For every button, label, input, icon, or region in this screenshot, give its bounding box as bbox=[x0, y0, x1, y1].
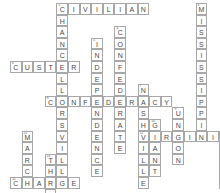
crossword-cell[interactable]: 1C bbox=[56, 3, 68, 15]
crossword-cell[interactable]: I bbox=[149, 131, 161, 143]
crossword-cell[interactable]: R bbox=[219, 154, 220, 166]
crossword-cell[interactable]: P bbox=[196, 96, 208, 108]
crossword-cell[interactable]: N bbox=[91, 142, 103, 154]
crossword-cell[interactable]: C bbox=[22, 165, 34, 177]
crossword-cell[interactable]: F bbox=[80, 96, 92, 108]
crossword-cell[interactable]: D bbox=[91, 61, 103, 73]
crossword-cell[interactable]: 7N bbox=[138, 84, 150, 96]
crossword-cell[interactable]: S bbox=[33, 61, 45, 73]
crossword-cell[interactable]: S bbox=[196, 26, 208, 38]
crossword-cell[interactable]: A bbox=[126, 3, 138, 15]
crossword-cell[interactable]: 15C bbox=[10, 177, 22, 189]
crossword-cell[interactable]: S bbox=[196, 38, 208, 50]
crossword-cell[interactable]: E bbox=[114, 96, 126, 108]
crossword-cell[interactable]: I bbox=[207, 131, 219, 143]
crossword-cell[interactable]: G bbox=[172, 131, 184, 143]
crossword-cell[interactable]: E bbox=[114, 142, 126, 154]
crossword-cell[interactable]: R bbox=[22, 154, 34, 166]
crossword-cell[interactable]: L bbox=[103, 3, 115, 15]
crossword-cell[interactable]: I bbox=[114, 3, 126, 15]
crossword-cell[interactable]: N bbox=[138, 3, 150, 15]
crossword-cell[interactable]: E bbox=[68, 177, 80, 189]
crossword-cell[interactable]: D bbox=[103, 96, 115, 108]
crossword-cell[interactable]: S bbox=[196, 61, 208, 73]
crossword-cell[interactable]: A bbox=[114, 119, 126, 131]
crossword-cell[interactable]: L bbox=[56, 84, 68, 96]
crossword-cell[interactable]: U bbox=[22, 61, 34, 73]
crossword-cell[interactable]: L bbox=[56, 154, 68, 166]
crossword-cell[interactable]: O bbox=[172, 142, 184, 154]
crossword-cell[interactable]: V bbox=[56, 131, 68, 143]
crossword-cell[interactable]: A bbox=[33, 177, 45, 189]
crossword-cell[interactable]: N bbox=[149, 154, 161, 166]
crossword-cell[interactable]: D bbox=[91, 119, 103, 131]
crossword-cell[interactable]: R bbox=[161, 131, 173, 143]
crossword-cell[interactable]: C bbox=[149, 96, 161, 108]
crossword-cell[interactable]: N bbox=[114, 49, 126, 61]
crossword-cell[interactable]: L bbox=[138, 165, 150, 177]
crossword-cell[interactable]: R bbox=[126, 96, 138, 108]
crossword-cell[interactable]: I bbox=[196, 84, 208, 96]
crossword-cell[interactable]: C bbox=[56, 49, 68, 61]
crossword-cell[interactable]: 6C bbox=[10, 61, 22, 73]
crossword-cell[interactable]: I bbox=[56, 142, 68, 154]
crossword-cell[interactable]: L bbox=[138, 154, 150, 166]
crossword-cell[interactable]: F bbox=[114, 61, 126, 73]
crossword-cell[interactable]: N bbox=[172, 154, 184, 166]
crossword-cell[interactable]: 9U bbox=[172, 107, 184, 119]
crossword-cell[interactable]: Y bbox=[161, 96, 173, 108]
crossword-cell[interactable]: I bbox=[219, 165, 220, 177]
crossword-cell[interactable]: O bbox=[56, 96, 68, 108]
crossword-cell[interactable]: P bbox=[219, 142, 220, 154]
crossword-cell[interactable]: E bbox=[91, 96, 103, 108]
crossword-cell[interactable]: R bbox=[45, 177, 57, 189]
crossword-cell[interactable]: 13A bbox=[219, 131, 220, 143]
crossword-cell[interactable]: L bbox=[56, 73, 68, 85]
crossword-cell[interactable]: N bbox=[196, 131, 208, 143]
crossword-cell[interactable]: E bbox=[91, 131, 103, 143]
crossword-cell[interactable]: I bbox=[196, 49, 208, 61]
crossword-cell[interactable]: I bbox=[184, 131, 196, 143]
crossword-cell[interactable]: R bbox=[56, 107, 68, 119]
crossword-cell[interactable]: A bbox=[149, 142, 161, 154]
crossword-cell[interactable]: 8C bbox=[45, 96, 57, 108]
crossword-cell[interactable]: H bbox=[56, 15, 68, 27]
crossword-cell[interactable]: R bbox=[68, 61, 80, 73]
crossword-cell[interactable]: C bbox=[91, 154, 103, 166]
crossword-cell[interactable]: L bbox=[56, 165, 68, 177]
crossword-cell[interactable]: S bbox=[138, 107, 150, 119]
crossword-cell[interactable]: A bbox=[138, 96, 150, 108]
crossword-cell[interactable]: I bbox=[138, 142, 150, 154]
crossword-cell[interactable]: 14T bbox=[45, 154, 57, 166]
crossword-cell[interactable]: E bbox=[56, 61, 68, 73]
crossword-cell[interactable]: H bbox=[45, 165, 57, 177]
crossword-cell[interactable]: L bbox=[219, 177, 220, 189]
crossword-cell[interactable]: S bbox=[196, 73, 208, 85]
crossword-cell[interactable]: 4C bbox=[114, 26, 126, 38]
crossword-cell[interactable]: D bbox=[114, 84, 126, 96]
crossword-cell[interactable]: N bbox=[91, 49, 103, 61]
crossword-cell[interactable]: E bbox=[91, 165, 103, 177]
crossword-cell[interactable]: T bbox=[149, 165, 161, 177]
crossword-cell[interactable]: N bbox=[56, 38, 68, 50]
crossword-cell[interactable]: N bbox=[172, 119, 184, 131]
crossword-cell[interactable]: N bbox=[91, 107, 103, 119]
crossword-cell[interactable]: S bbox=[56, 119, 68, 131]
crossword-cell[interactable]: I bbox=[196, 119, 208, 131]
crossword-cell[interactable]: E bbox=[138, 177, 150, 189]
crossword-cell[interactable]: I bbox=[68, 3, 80, 15]
crossword-cell[interactable]: N bbox=[68, 96, 80, 108]
crossword-cell[interactable]: I bbox=[91, 3, 103, 15]
crossword-cell[interactable]: P bbox=[91, 84, 103, 96]
crossword-cell[interactable]: 12V bbox=[138, 131, 150, 143]
crossword-cell[interactable]: H bbox=[138, 119, 150, 131]
crossword-cell[interactable]: O bbox=[114, 38, 126, 50]
crossword-cell[interactable]: V bbox=[80, 3, 92, 15]
crossword-cell[interactable]: R bbox=[45, 189, 57, 193]
crossword-cell[interactable]: E bbox=[114, 73, 126, 85]
crossword-cell[interactable]: 11M bbox=[22, 131, 34, 143]
crossword-cell[interactable]: R bbox=[114, 107, 126, 119]
crossword-cell[interactable]: 10G bbox=[149, 119, 161, 131]
crossword-cell[interactable]: T bbox=[45, 61, 57, 73]
crossword-cell[interactable]: H bbox=[22, 177, 34, 189]
